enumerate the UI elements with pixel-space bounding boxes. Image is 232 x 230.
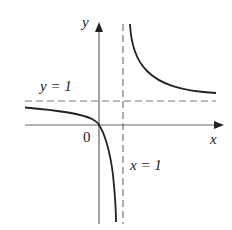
x-axis-label: x [210,131,217,148]
y-axis-label: y [82,14,89,31]
origin-label: 0 [83,129,91,146]
curve-right-branch [130,24,216,93]
v-asymptote-label: x = 1 [130,157,162,174]
y-axis-arrow-icon [95,22,103,32]
h-asymptote-label: y = 1 [40,78,72,95]
graph-canvas [0,0,232,230]
x-axis-arrow-icon [214,121,224,129]
